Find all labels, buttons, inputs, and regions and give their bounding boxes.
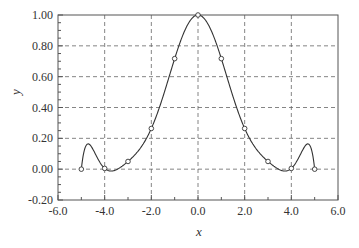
x-tick-labels: -6.0-4.0-2.00.02.04.06.0 bbox=[49, 204, 346, 218]
x-tick-label: 6.0 bbox=[331, 204, 346, 218]
y-tick-label: 0.60 bbox=[32, 70, 53, 84]
data-point-marker bbox=[219, 56, 224, 61]
y-tick-labels: -0.200.000.200.400.600.801.00 bbox=[28, 8, 53, 207]
y-tick-label: 0.40 bbox=[32, 101, 53, 115]
x-tick-label: -4.0 bbox=[95, 204, 114, 218]
grid-lines bbox=[58, 15, 338, 200]
y-tick-label: 1.00 bbox=[32, 8, 53, 22]
x-tick-label: 2.0 bbox=[237, 204, 252, 218]
y-tick-label: 0.00 bbox=[32, 162, 53, 176]
x-tick-label: 0.0 bbox=[191, 204, 206, 218]
chart: -6.0-4.0-2.00.02.04.06.0 -0.200.000.200.… bbox=[0, 0, 359, 248]
x-tick-label: 4.0 bbox=[284, 204, 299, 218]
data-point-marker bbox=[79, 167, 84, 172]
data-point-marker bbox=[312, 167, 317, 172]
data-point-marker bbox=[149, 126, 154, 131]
y-tick-label: 0.80 bbox=[32, 39, 53, 53]
data-point-marker bbox=[126, 159, 131, 164]
data-point-marker bbox=[102, 166, 107, 171]
x-tick-label: -2.0 bbox=[142, 204, 161, 218]
data-point-marker bbox=[172, 56, 177, 61]
data-point-marker bbox=[242, 126, 247, 131]
data-point-marker bbox=[266, 159, 271, 164]
data-point-marker bbox=[196, 13, 201, 18]
y-tick-label: -0.20 bbox=[28, 193, 53, 207]
y-axis-label: y bbox=[8, 89, 23, 97]
x-axis-label: x bbox=[195, 224, 202, 239]
data-point-marker bbox=[289, 166, 294, 171]
y-tick-label: 0.20 bbox=[32, 131, 53, 145]
